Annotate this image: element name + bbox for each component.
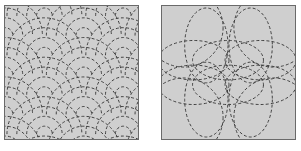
pattern-ellipse	[162, 78, 223, 139]
wave-arc	[56, 47, 111, 75]
wave-arc	[105, 116, 138, 134]
wave-arc	[5, 116, 42, 139]
wave-arc	[7, 136, 82, 139]
pattern-ellipse	[185, 8, 228, 83]
wave-arc	[37, 126, 53, 134]
circles-pattern-drawing	[162, 6, 295, 139]
circles-pattern-panel	[161, 5, 296, 140]
wave-arc	[5, 38, 42, 75]
wave-arc	[56, 8, 111, 36]
wave-arc	[96, 106, 138, 134]
wave-arc	[66, 136, 101, 139]
wave-arc	[86, 6, 138, 16]
wave-arc	[27, 77, 62, 95]
wave-arc	[17, 67, 72, 95]
wave-arc	[5, 106, 13, 114]
wave-arc	[17, 28, 72, 56]
wave-arc	[96, 28, 138, 56]
wave-arc	[115, 8, 131, 16]
pattern-ellipse	[225, 40, 295, 79]
wave-arc	[76, 67, 92, 75]
wave-arc	[66, 97, 101, 115]
wave-arc	[115, 87, 131, 95]
pattern-ellipse	[234, 78, 295, 139]
wave-arc	[66, 57, 101, 75]
wave-arc	[96, 67, 138, 95]
wave-arc	[17, 106, 72, 134]
wave-arc	[5, 136, 23, 139]
wave-arc	[5, 77, 42, 114]
wave-arc	[5, 28, 13, 36]
pattern-ellipse	[225, 65, 295, 104]
wave-arc	[37, 87, 53, 95]
wave-arc	[37, 47, 53, 55]
wave-arc	[105, 38, 138, 56]
pattern-ellipse	[193, 65, 264, 104]
wave-arc	[56, 126, 111, 139]
wave-arc	[115, 126, 131, 134]
wave-arc	[66, 18, 101, 36]
wave-arc	[105, 6, 138, 16]
wave-arc	[27, 38, 62, 56]
seigaiha-pattern-drawing	[5, 6, 138, 139]
wave-arc	[27, 116, 62, 134]
pattern-ellipse	[162, 6, 223, 67]
wave-arc	[5, 67, 13, 75]
pattern-ellipse	[234, 6, 295, 67]
wave-arc	[5, 126, 33, 139]
wave-arc	[105, 77, 138, 95]
pattern-ellipse	[185, 62, 228, 137]
wave-arc	[56, 87, 111, 115]
seigaiha-pattern-panel	[4, 5, 139, 140]
pattern-ellipse	[162, 65, 229, 104]
wave-arc	[5, 6, 42, 36]
pattern-ellipse	[162, 40, 229, 79]
wave-arc	[115, 47, 131, 55]
wave-arc	[37, 8, 53, 16]
wave-arc	[76, 106, 92, 114]
wave-arc	[76, 28, 92, 36]
